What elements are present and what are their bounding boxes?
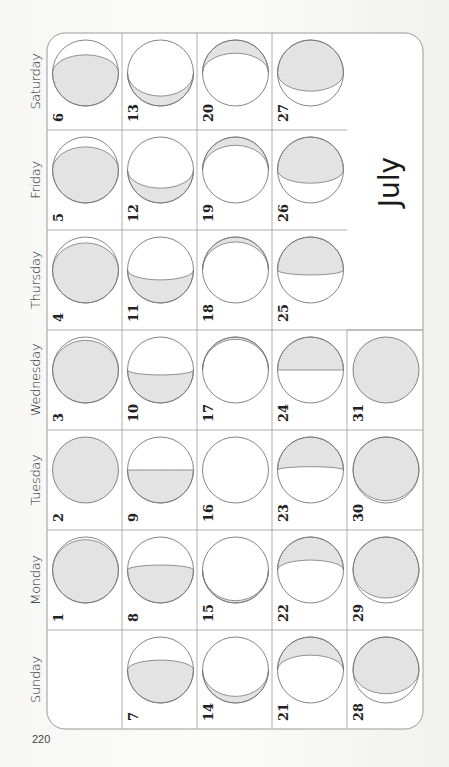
day-number: 30 (351, 504, 366, 522)
day-number: 12 (126, 204, 141, 222)
day-number: 1 (51, 613, 66, 622)
day-number: 14 (201, 703, 216, 721)
month-title: July (373, 157, 406, 209)
day-number: 4 (51, 313, 66, 322)
day-number: 29 (351, 604, 366, 622)
day-number: 17 (201, 404, 216, 422)
day-number: 5 (51, 213, 66, 222)
day-number: 3 (51, 413, 66, 422)
day-number: 23 (276, 504, 291, 522)
day-number: 8 (126, 613, 141, 622)
day-number: 9 (126, 513, 141, 522)
page-number: 220 (32, 733, 50, 745)
day-number: 28 (351, 703, 366, 721)
day-number: 15 (201, 604, 216, 622)
weekday-label-thursday: Thursday (28, 251, 43, 309)
moon-phase-calendar: SundayMondayTuesdayWednesdayThursdayFrid… (0, 0, 449, 767)
day-number: 11 (126, 304, 141, 322)
day-number: 27 (276, 104, 291, 122)
calendar-page: SundayMondayTuesdayWednesdayThursdayFrid… (0, 0, 449, 767)
day-number: 16 (201, 504, 216, 522)
day-number: 21 (276, 703, 291, 721)
day-number: 26 (276, 204, 291, 222)
day-number: 18 (201, 304, 216, 322)
day-number: 6 (51, 113, 66, 122)
weekday-label-saturday: Saturday (28, 53, 43, 109)
day-number: 13 (126, 104, 141, 122)
day-number: 31 (351, 404, 366, 422)
day-number: 24 (276, 404, 291, 422)
day-number: 22 (276, 604, 291, 622)
day-number: 25 (276, 304, 291, 322)
weekday-label-wednesday: Wednesday (28, 344, 43, 417)
day-number: 10 (126, 404, 141, 422)
weekday-label-tuesday: Tuesday (28, 455, 43, 506)
day-number: 20 (201, 104, 216, 122)
day-number: 2 (51, 513, 66, 522)
day-number: 7 (126, 712, 141, 721)
weekday-label-monday: Monday (28, 555, 43, 605)
weekday-label-friday: Friday (28, 161, 43, 199)
day-number: 19 (201, 204, 216, 222)
weekday-label-sunday: Sunday (28, 656, 43, 703)
